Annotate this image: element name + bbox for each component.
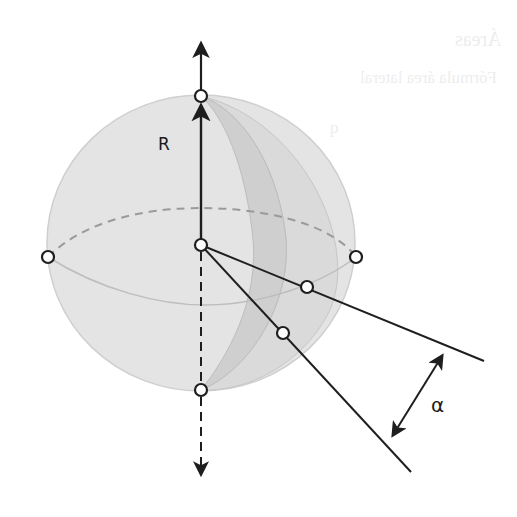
point-lune-lower xyxy=(277,327,289,339)
point-center xyxy=(195,239,207,251)
bleed-through-symbol: q xyxy=(330,118,339,138)
point-top-pole xyxy=(195,90,207,102)
bleed-through-subheading: Fórmula área lateral xyxy=(360,68,497,88)
radius-label: R xyxy=(158,134,170,154)
sphere-lune-diagram: Áreas Fórmula área lateral q xyxy=(0,0,517,517)
bleed-through-heading: Áreas xyxy=(455,28,502,51)
angle-alpha-label: α xyxy=(431,393,444,417)
point-lune-upper xyxy=(301,281,313,293)
point-equator-left xyxy=(42,251,54,263)
point-equator-right xyxy=(350,251,362,263)
point-bottom-pole xyxy=(195,384,207,396)
